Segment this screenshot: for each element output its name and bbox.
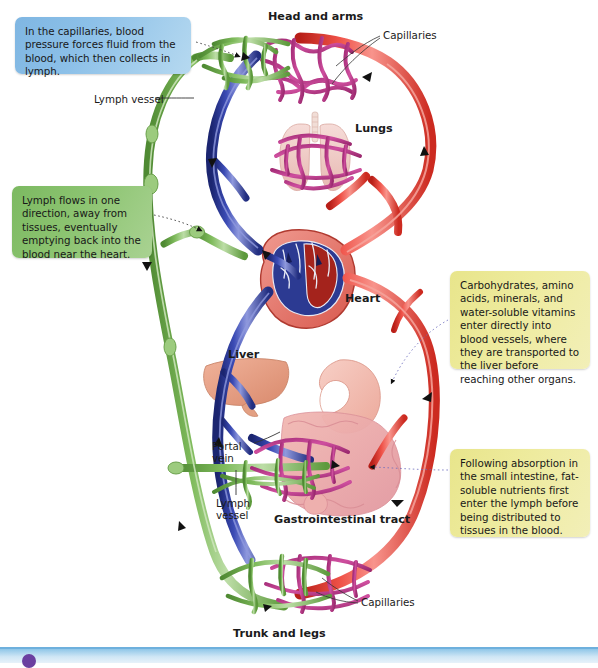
callout-text: Following absorption in the small intest…	[460, 457, 579, 536]
callout-fat-soluble-nutrients: Following absorption in the small intest…	[450, 449, 590, 537]
label-head-and-arms: Head and arms	[268, 10, 363, 23]
label-liver: Liver	[228, 348, 259, 361]
callout-text: Carbohydrates, amino acids, minerals, an…	[460, 279, 579, 385]
label-trunk-and-legs: Trunk and legs	[233, 627, 326, 640]
label-lymph-vessel-gi: Lymph vessel	[216, 497, 256, 522]
callout-text: Lymph flows in one direction, away from …	[22, 194, 141, 260]
label-gastrointestinal-tract: Gastrointestinal tract	[274, 513, 410, 526]
callout-text: In the capillaries, blood pressure force…	[25, 25, 176, 77]
callout-water-soluble-nutrients: Carbohydrates, amino acids, minerals, an…	[450, 271, 590, 369]
label-capillaries-bottom: Capillaries	[361, 596, 415, 608]
label-portal-vein: Portal vein	[212, 440, 254, 465]
label-heart: Heart	[345, 292, 380, 305]
label-lymph-vessel-top: Lymph vessel	[94, 93, 164, 105]
organ-heart	[261, 230, 355, 328]
callout-capillary-pressure: In the capillaries, blood pressure force…	[15, 17, 191, 74]
footer-bullet-icon	[22, 654, 36, 668]
label-capillaries-top: Capillaries	[383, 29, 437, 41]
lymph-nodes	[144, 125, 205, 474]
page-footer-bar	[0, 647, 598, 663]
callout-lymph-flow: Lymph flows in one direction, away from …	[12, 186, 152, 258]
label-lungs: Lungs	[355, 122, 393, 135]
